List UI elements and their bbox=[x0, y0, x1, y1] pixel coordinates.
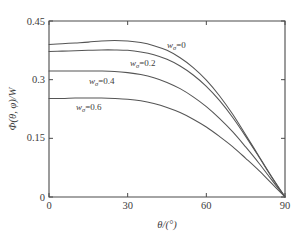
data-curve-1 bbox=[49, 50, 285, 197]
svg-text:wσ=0.4: wσ=0.4 bbox=[89, 76, 115, 87]
annotation-2-value: =0.4 bbox=[98, 76, 115, 86]
svg-text:Φ(θ, φ)/W: Φ(θ, φ)/W bbox=[7, 86, 19, 130]
figure-container: 0 30 60 90 0 0.15 0.3 0.45 θ/(°) Φ(θ, φ)… bbox=[0, 0, 300, 237]
curve-annotation-0: wσ=0 bbox=[167, 40, 186, 51]
ytick-label-0-45: 0.45 bbox=[27, 16, 45, 27]
annotation-1-value: =0.2 bbox=[139, 58, 155, 68]
data-curve-2 bbox=[49, 71, 285, 197]
xtick-label-60: 60 bbox=[201, 200, 212, 211]
svg-text:wσ=0.2: wσ=0.2 bbox=[130, 58, 156, 69]
svg-text:wσ=0: wσ=0 bbox=[167, 40, 186, 51]
curve-annotation-2: wσ=0.4 bbox=[89, 76, 115, 87]
ytick-label-0: 0 bbox=[40, 192, 45, 203]
curve-annotation-1: wσ=0.2 bbox=[130, 58, 156, 69]
xtick-label-0: 0 bbox=[46, 200, 51, 211]
data-curves bbox=[49, 41, 285, 197]
xtick-label-30: 30 bbox=[122, 200, 133, 211]
xtick-label-90: 90 bbox=[280, 200, 291, 211]
y-axis-title: Φ(θ, φ)/W bbox=[7, 86, 19, 130]
ytick-label-0-15: 0.15 bbox=[27, 132, 45, 143]
y-title-over-w: /W bbox=[7, 86, 18, 100]
curve-annotation-3: wσ=0.6 bbox=[76, 102, 102, 113]
data-curve-0 bbox=[49, 41, 285, 197]
annotation-0-value: =0 bbox=[176, 40, 186, 50]
x-axis-title: θ/(°) bbox=[157, 219, 177, 231]
ytick-label-0-3: 0.3 bbox=[32, 74, 45, 85]
line-chart: 0 30 60 90 0 0.15 0.3 0.45 θ/(°) Φ(θ, φ)… bbox=[0, 0, 300, 237]
svg-text:wσ=0.6: wσ=0.6 bbox=[76, 102, 102, 113]
annotation-3-value: =0.6 bbox=[85, 102, 102, 112]
y-title-phi-cap: Φ bbox=[7, 122, 18, 130]
